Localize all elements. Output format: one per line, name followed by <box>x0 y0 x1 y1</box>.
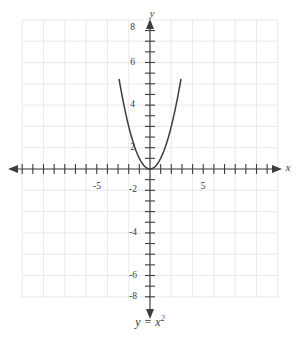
y-tick-label-6: 6 <box>130 58 135 68</box>
coordinate-plane <box>0 0 300 341</box>
equation-caption: y = x2 <box>135 316 165 328</box>
x-tick-label-neg5: -5 <box>93 182 101 192</box>
y-tick-label-8: 8 <box>130 23 135 33</box>
equation-caption-exponent: 2 <box>161 314 165 323</box>
y-tick-label-4: 4 <box>130 100 135 110</box>
y-tick-label-neg2: -2 <box>129 186 137 196</box>
y-tick-label-neg4: -4 <box>129 228 137 238</box>
y-tick-label-2: 2 <box>130 143 135 153</box>
y-tick-label-neg8: -8 <box>129 292 137 302</box>
equation-caption-base: y = x <box>135 315 161 329</box>
x-axis-arrow-left <box>8 165 18 173</box>
y-axis-label: y <box>150 9 155 20</box>
x-tick-label-5: 5 <box>201 182 206 192</box>
y-tick-label-neg6: -6 <box>129 271 137 281</box>
y-axis-arrow-up <box>146 19 154 29</box>
x-axis-arrow-right <box>272 165 282 173</box>
graph-figure: 8 6 4 2 -2 -4 -6 -8 -5 5 x y y = x2 <box>0 0 300 341</box>
x-axis-label: x <box>286 163 291 174</box>
